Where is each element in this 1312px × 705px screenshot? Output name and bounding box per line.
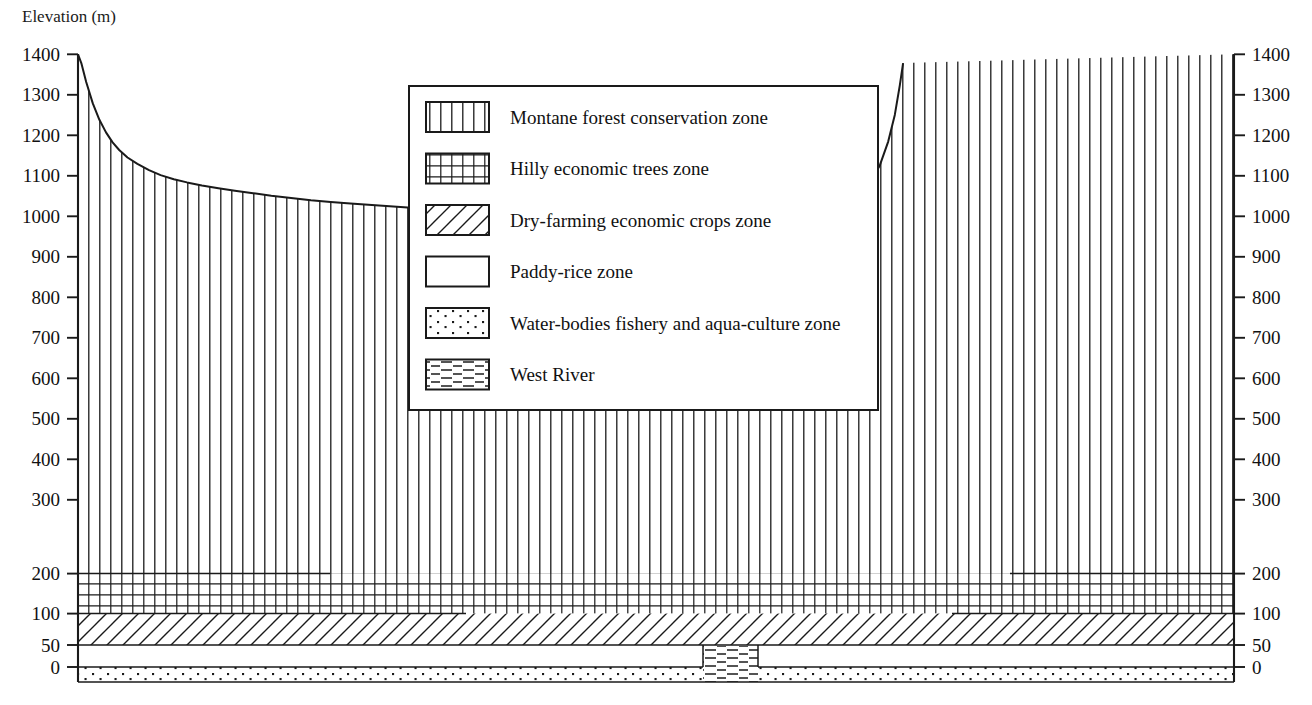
zone-water-bodies	[78, 667, 1234, 682]
zone-dry-farming	[78, 614, 1234, 645]
legend-item-label: Hilly economic trees zone	[510, 158, 709, 179]
right-axis-ticks: 1400130012001100100090080070060050040030…	[1234, 44, 1290, 678]
right-tick-label: 1100	[1252, 165, 1289, 186]
right-tick-label: 800	[1252, 287, 1281, 308]
left-tick-label: 1100	[23, 165, 60, 186]
left-tick-label: 100	[32, 603, 61, 624]
grid-pattern	[426, 154, 489, 184]
right-tick-label: 1000	[1252, 206, 1290, 227]
left-tick-label: 0	[51, 657, 61, 678]
left-tick-label: 300	[32, 489, 61, 510]
right-tick-label: 1400	[1252, 44, 1290, 65]
elevation-cross-section-figure: Elevation (m) 140013001200110010009008	[0, 0, 1312, 705]
right-tick-label: 50	[1252, 635, 1271, 656]
right-tick-label: 1200	[1252, 125, 1290, 146]
left-axis-ticks: 1400130012001100100090080070060050040030…	[22, 44, 78, 678]
right-tick-label: 500	[1252, 408, 1281, 429]
left-tick-label: 1000	[22, 206, 60, 227]
legend-item-label: Paddy-rice zone	[510, 261, 633, 282]
left-tick-label: 1200	[22, 125, 60, 146]
left-tick-label: 700	[32, 327, 61, 348]
right-tick-label: 100	[1252, 603, 1281, 624]
left-tick-label: 800	[32, 287, 61, 308]
left-tick-label: 200	[32, 563, 61, 584]
horizontal-dashes-pattern	[426, 360, 489, 390]
legend-item-label: Dry-farming economic crops zone	[510, 210, 771, 231]
legend: Montane forest conservation zoneHilly ec…	[409, 86, 878, 410]
legend-item-label: Montane forest conservation zone	[510, 107, 768, 128]
right-tick-label: 1300	[1252, 84, 1290, 105]
diagonal-lines-pattern	[426, 205, 489, 235]
dots-pattern	[426, 308, 489, 338]
left-tick-label: 500	[32, 408, 61, 429]
left-tick-label: 1300	[22, 84, 60, 105]
left-tick-label: 1400	[22, 44, 60, 65]
left-tick-label: 600	[32, 368, 61, 389]
blank-pattern	[426, 257, 489, 287]
vertical-lines-pattern	[426, 102, 489, 132]
right-tick-label: 200	[1252, 563, 1281, 584]
y-axis-title: Elevation (m)	[22, 7, 116, 26]
right-tick-label: 300	[1252, 489, 1281, 510]
legend-item-label: West River	[510, 364, 595, 385]
right-tick-label: 0	[1252, 657, 1262, 678]
right-tick-label: 600	[1252, 368, 1281, 389]
right-tick-label: 900	[1252, 246, 1281, 267]
zone-hilly-trees	[78, 574, 1234, 614]
left-tick-label: 50	[41, 635, 60, 656]
legend-item-label: Water-bodies fishery and aqua-culture zo…	[510, 313, 840, 334]
zone-west-river	[703, 646, 758, 682]
right-tick-label: 400	[1252, 449, 1281, 470]
right-tick-label: 700	[1252, 327, 1281, 348]
zone-paddy-rice	[78, 645, 1234, 667]
left-tick-label: 900	[32, 246, 61, 267]
left-tick-label: 400	[32, 449, 61, 470]
